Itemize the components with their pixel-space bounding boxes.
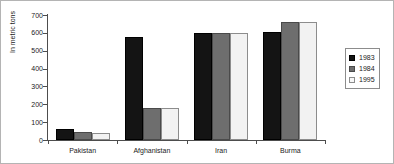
legend-item-1995: 1995 <box>349 74 375 85</box>
legend-item-1983: 1983 <box>349 52 375 63</box>
y-axis-tick-label-wrap: 500 <box>11 47 43 54</box>
y-axis-tick-label-wrap: 0 <box>11 137 43 144</box>
y-axis-tick-label-wrap: 600 <box>11 29 43 36</box>
legend-label-1984: 1984 <box>359 65 375 72</box>
y-axis-tick-label: 400 <box>17 65 43 72</box>
legend-swatch-1984-icon <box>349 66 355 72</box>
y-axis-tick-label: 600 <box>17 29 43 36</box>
x-axis-tick <box>117 140 118 144</box>
y-axis-tick-label-wrap: 100 <box>11 119 43 126</box>
y-axis-tick-label: 100 <box>17 119 43 126</box>
x-axis-tick <box>325 140 326 144</box>
y-axis-tick-label-wrap: 200 <box>11 101 43 108</box>
x-axis-tick <box>256 140 257 144</box>
legend-item-1984: 1984 <box>349 63 375 74</box>
x-axis-tick <box>187 140 188 144</box>
x-axis-tick <box>48 140 49 144</box>
category-label-afghanistan: Afghanistan <box>133 147 170 154</box>
plot-area <box>48 15 325 140</box>
y-axis-tick-label: 700 <box>17 12 43 19</box>
legend-label-1995: 1995 <box>359 76 375 83</box>
bar-burma-1995 <box>299 22 317 140</box>
legend-swatch-1983-icon <box>349 55 355 61</box>
bar-group <box>48 15 325 140</box>
y-axis-tick-label-wrap: 400 <box>11 65 43 72</box>
y-axis-tick-label: 300 <box>17 83 43 90</box>
bar-burma-1983 <box>263 32 281 140</box>
category-label-pakistan: Pakistan <box>69 147 96 154</box>
y-axis-tick-label-wrap: 300 <box>11 83 43 90</box>
y-axis-tick-label: 200 <box>17 101 43 108</box>
category-label-burma: Burma <box>280 147 301 154</box>
y-axis-tick-label: 0 <box>17 137 43 144</box>
legend-label-1983: 1983 <box>359 54 375 61</box>
y-axis-tick-label: 500 <box>17 47 43 54</box>
bar-chart: In metric tons 7006005004003002001000 Pa… <box>0 0 394 164</box>
y-axis-tick-label-wrap: 700 <box>11 12 43 19</box>
legend-swatch-1995-icon <box>349 77 355 83</box>
legend: 198319841995 <box>345 48 380 89</box>
bar-burma-1984 <box>281 22 299 140</box>
category-label-iran: Iran <box>215 147 227 154</box>
